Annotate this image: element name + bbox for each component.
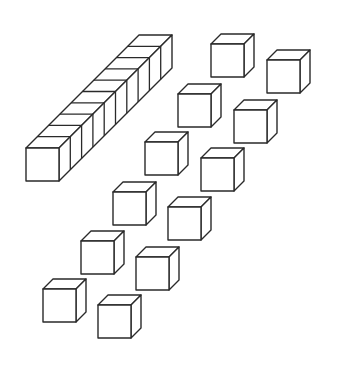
unit-cube-10 [136,247,179,290]
unit-cube-12 [98,295,141,338]
unit-cube-7 [113,182,156,225]
cube-front-face [211,44,244,77]
unit-cubes [43,34,310,338]
unit-cube-2 [267,50,310,93]
unit-cube-3 [178,84,221,127]
unit-cube-4 [234,100,277,143]
unit-cube-9 [81,231,124,274]
cube-front-face [98,305,131,338]
cube-front-face [267,60,300,93]
diagram-canvas [0,0,345,368]
unit-cube-1 [211,34,254,77]
base-ten-blocks-diagram [0,0,345,368]
cube-front-face [136,257,169,290]
cube-front-face [81,241,114,274]
cube-front-face [201,158,234,191]
cube-front-face [168,207,201,240]
cube-front-face [234,110,267,143]
cube-front-face [178,94,211,127]
cube-front-face [113,192,146,225]
cube-front-face [43,289,76,322]
unit-cube-8 [168,197,211,240]
rod-front-face [26,148,59,181]
unit-cube-5 [145,132,188,175]
unit-cube-11 [43,279,86,322]
unit-cube-6 [201,148,244,191]
cube-front-face [145,142,178,175]
